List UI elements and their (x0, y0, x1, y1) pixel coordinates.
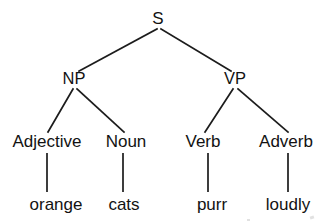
node-verb: Verb (186, 132, 221, 151)
node-adjective: Adjective (13, 132, 82, 151)
leaf-word-loudly: loudly (266, 195, 311, 214)
edge-np-to-noun (77, 89, 124, 132)
node-adverb: Adverb (259, 132, 313, 151)
node-np: NP (63, 69, 86, 87)
leaf-word-cats: cats (108, 195, 139, 214)
tree-stems (47, 153, 288, 192)
node-vp: VP (224, 69, 246, 87)
edge-s-to-vp (161, 29, 231, 71)
edge-vp-to-verb (205, 89, 233, 132)
syntax-tree-figure: S NP VP Adjective Noun Verb Adverb orang… (0, 0, 328, 223)
edge-vp-to-adverb (238, 89, 288, 132)
syntax-tree-canvas: S NP VP Adjective Noun Verb Adverb orang… (0, 0, 328, 223)
leaf-word-purr: purr (197, 195, 228, 214)
edge-s-to-np (79, 29, 157, 71)
node-s: S (152, 9, 163, 28)
tree-node-labels: S NP VP Adjective Noun Verb Adverb orang… (13, 9, 313, 214)
edge-np-to-adjective (48, 89, 73, 132)
scan-artifact-speck (247, 219, 250, 221)
leaf-word-orange: orange (30, 195, 83, 214)
node-noun: Noun (106, 132, 147, 151)
